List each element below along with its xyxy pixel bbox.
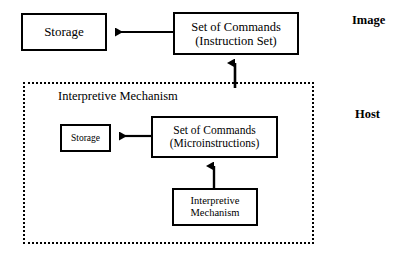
node-host-interpretive-mechanism[interactable]: Interpretive Mechanism bbox=[172, 188, 258, 226]
host-region-container bbox=[23, 82, 314, 244]
node-image-commands-line1: Set of Commands bbox=[191, 20, 281, 34]
node-host-interp-line2: Mechanism bbox=[191, 207, 240, 219]
node-host-commands-line2: (Microinstructions) bbox=[170, 137, 259, 150]
node-image-commands-line2: (Instruction Set) bbox=[195, 34, 277, 48]
caption-image: Image bbox=[352, 13, 385, 28]
node-host-set-of-commands[interactable]: Set of Commands (Microinstructions) bbox=[151, 116, 278, 158]
node-image-storage-line1: Storage bbox=[44, 25, 84, 40]
caption-host: Host bbox=[355, 107, 380, 122]
node-host-storage[interactable]: Storage bbox=[60, 124, 111, 152]
node-host-commands-line1: Set of Commands bbox=[173, 124, 255, 137]
node-image-storage[interactable]: Storage bbox=[21, 13, 107, 51]
diagram-canvas: Interpretive Mechanism Storage bbox=[0, 0, 416, 258]
node-host-interp-line1: Interpretive bbox=[191, 195, 240, 207]
node-host-storage-line1: Storage bbox=[71, 133, 100, 144]
node-image-set-of-commands[interactable]: Set of Commands (Instruction Set) bbox=[173, 12, 299, 55]
host-region-label: Interpretive Mechanism bbox=[58, 89, 178, 104]
